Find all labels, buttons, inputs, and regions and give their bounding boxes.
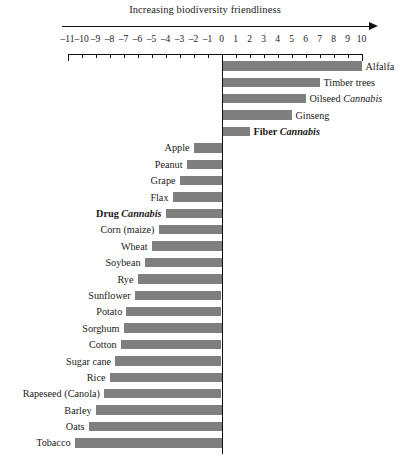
bar (121, 340, 222, 349)
axis-tick-label: 3 (261, 34, 266, 44)
bar-row: Rye (0, 271, 410, 287)
axis-tick-label: –8 (105, 34, 115, 44)
bar-row: Apple (0, 140, 410, 156)
bar (89, 422, 222, 431)
zero-axis-line (222, 54, 223, 454)
bar-label: Rye (117, 272, 133, 287)
bar-label: Corn (maize) (100, 222, 154, 237)
bar-row: Timber trees (0, 74, 410, 90)
bar-row: Barley (0, 402, 410, 418)
bar-label: Sorghum (82, 321, 119, 336)
bar (115, 356, 221, 365)
bar-label-part: Cannabis (121, 208, 161, 219)
bar-label: Barley (64, 403, 91, 418)
bar-row: Potato (0, 304, 410, 320)
bar (75, 438, 222, 447)
bar-label-part: Tobacco (36, 437, 70, 448)
axis-tick-label: –4 (161, 34, 171, 44)
axis-tick-label: –11 (61, 34, 75, 44)
bar (104, 389, 222, 398)
axis-tick-label: 7 (317, 34, 322, 44)
bar-label: Cotton (89, 337, 117, 352)
axis-tick-label: –10 (74, 34, 88, 44)
bar-label-part: Barley (64, 405, 91, 416)
bar-label: Rice (87, 370, 106, 385)
bar-label-part: Alfalfa (366, 61, 395, 72)
bar-row: Wheat (0, 238, 410, 254)
bar-row: Ginseng (0, 107, 410, 123)
bar-label: Soybean (105, 255, 140, 270)
bar (222, 78, 320, 87)
bar-row: Drug Cannabis (0, 206, 410, 222)
bar-row: Rapeseed (Canola) (0, 386, 410, 402)
bar (145, 258, 222, 267)
bar (194, 143, 222, 152)
bar-row: Oilseed Cannabis (0, 91, 410, 107)
bar-label: Sugar cane (66, 354, 111, 369)
bar-row: Oats (0, 419, 410, 435)
bar-rows: AlfalfaTimber treesOilseed CannabisGinse… (0, 58, 410, 451)
bar (222, 110, 292, 119)
bar-label: Oats (66, 419, 85, 434)
bar (159, 225, 222, 234)
bar-label: Alfalfa (366, 59, 395, 74)
axis-tick-label: –2 (189, 34, 199, 44)
bar-row: Cotton (0, 337, 410, 353)
bar-label-part: Rice (87, 372, 106, 383)
bar (152, 241, 222, 250)
bar-label: Sunflower (88, 288, 130, 303)
bar-label-part: Cotton (89, 339, 117, 350)
axis-tick-label: –7 (119, 34, 129, 44)
bar (124, 323, 222, 332)
bar (222, 127, 250, 136)
bar-label-part: Sorghum (82, 323, 119, 334)
axis-tick-label: 4 (275, 34, 280, 44)
bar-label-part: Grape (151, 175, 176, 186)
bar-row: Soybean (0, 255, 410, 271)
bar (138, 274, 222, 283)
bar-label-part: Drug (96, 208, 121, 219)
bar-label-part: Timber trees (324, 77, 375, 88)
bar-label: Oilseed Cannabis (310, 91, 383, 106)
axis-tick-label: 1 (233, 34, 238, 44)
bar-label: Apple (165, 140, 190, 155)
biodiversity-friendliness-chart: Increasing biodiversity friendliness –11… (0, 0, 410, 475)
bar-label: Potato (96, 304, 122, 319)
bar-label-part: Soybean (105, 257, 140, 268)
axis-tick-label: –3 (175, 34, 185, 44)
axis-line (68, 54, 362, 55)
bar (222, 61, 362, 70)
axis-tick-label: –9 (91, 34, 101, 44)
bar (173, 192, 222, 201)
bar-label: Tobacco (36, 435, 70, 450)
bar (110, 373, 222, 382)
bar-label: Flax (150, 190, 168, 205)
bar-row: Sunflower (0, 287, 410, 303)
bar-label-part: Sugar cane (66, 356, 111, 367)
bar-row: Grape (0, 173, 410, 189)
increasing-arrow (62, 22, 378, 31)
bar-row: Fiber Cannabis (0, 124, 410, 140)
axis-tick-label: 2 (247, 34, 252, 44)
bar-row: Sugar cane (0, 353, 410, 369)
bar-label-part: Oats (66, 421, 85, 432)
axis-tick-label: –6 (133, 34, 143, 44)
arrow-line-icon (62, 26, 370, 27)
bar-label-part: Potato (96, 306, 122, 317)
axis-tick-label: 5 (289, 34, 294, 44)
axis-tick-label: 6 (303, 34, 308, 44)
axis-tick-label: –5 (147, 34, 157, 44)
bar (187, 160, 222, 169)
bar-label-part: Peanut (155, 159, 183, 170)
axis-tick-label: 0 (219, 34, 224, 44)
bar-label-part: Flax (150, 192, 168, 203)
bar (180, 176, 222, 185)
bar-label-part: Fiber (254, 126, 280, 137)
axis-tick-label: 10 (357, 34, 367, 44)
bar-label: Grape (151, 173, 176, 188)
axis-tick-label: 9 (345, 34, 350, 44)
bar-row: Tobacco (0, 435, 410, 451)
bar (126, 307, 221, 316)
bar-label: Rapeseed (Canola) (23, 386, 100, 401)
bar-label: Ginseng (296, 108, 330, 123)
